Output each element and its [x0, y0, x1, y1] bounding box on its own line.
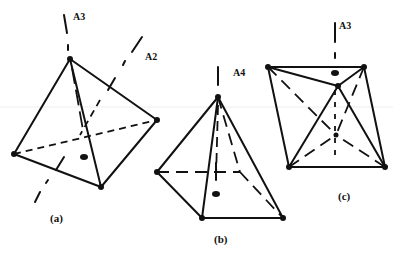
panel-b-label: (b)	[214, 233, 228, 246]
edge	[268, 67, 289, 167]
edge	[157, 172, 202, 218]
panel-a-label: (a)	[50, 212, 63, 225]
edge	[101, 120, 157, 187]
panel-c-label: (c)	[338, 190, 351, 203]
panel-a-axis-a3-label: A3	[73, 11, 85, 22]
symmetry-axes-figure: A3 A2 (a)	[0, 0, 393, 254]
panel-b-square-pyramid: A4 (b)	[154, 67, 286, 246]
edge	[289, 86, 338, 167]
panel-a-axis-a2	[35, 37, 142, 202]
panel-b-axis-a4-label: A4	[233, 67, 245, 78]
hidden-edge	[218, 97, 240, 172]
edge	[218, 97, 283, 218]
panel-a-axis-a2-label: A2	[145, 51, 157, 62]
panel-b-axis-a4	[216, 67, 218, 178]
center-of-mass-dot	[212, 191, 220, 197]
panel-c-axis-a3-label: A3	[339, 20, 351, 31]
edge	[338, 86, 385, 167]
panel-c-bipyramid: A3 (c)	[265, 20, 388, 203]
center-of-mass-dot	[331, 70, 339, 76]
panel-a-tetrahedron: A3 A2 (a)	[11, 11, 160, 225]
center-of-mass-dot	[80, 154, 88, 160]
hidden-edge	[336, 135, 385, 167]
edge	[364, 67, 385, 167]
edge	[14, 154, 101, 187]
hidden-edge	[289, 135, 336, 167]
edge	[268, 67, 338, 86]
